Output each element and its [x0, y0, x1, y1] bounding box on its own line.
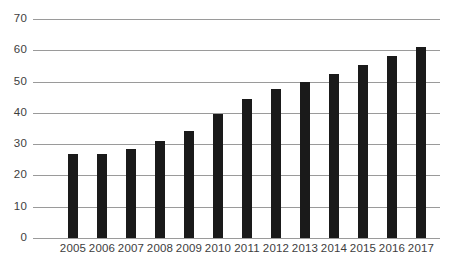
gridline: [33, 207, 440, 208]
bar: [68, 154, 78, 238]
y-axis-tick-label: 50: [14, 76, 27, 88]
bar: [329, 74, 339, 238]
plot-area: [33, 19, 440, 238]
y-axis-tick-label: 30: [14, 138, 27, 150]
gridline: [33, 113, 440, 114]
bar: [126, 149, 136, 238]
bar: [213, 114, 223, 238]
y-axis-tick-label: 70: [14, 13, 27, 25]
bar: [416, 47, 426, 238]
gridline: [33, 175, 440, 176]
x-axis-tick-label: 2017: [404, 243, 438, 255]
bar: [184, 131, 194, 238]
gridline: [33, 238, 440, 239]
y-axis-tick-label: 60: [14, 44, 27, 56]
y-axis-tick-label: 40: [14, 107, 27, 119]
y-axis-tick-label: 0: [20, 232, 27, 244]
bar: [97, 154, 107, 238]
gridline: [33, 82, 440, 83]
y-axis: 010203040506070: [0, 0, 27, 262]
bar: [387, 56, 397, 238]
gridline: [33, 50, 440, 51]
bar: [242, 99, 252, 238]
bar: [358, 65, 368, 238]
y-axis-tick-label: 20: [14, 169, 27, 181]
bar: [300, 82, 310, 238]
gridline: [33, 144, 440, 145]
y-axis-tick-label: 10: [14, 201, 27, 213]
bar: [271, 89, 281, 238]
gridline: [33, 19, 440, 20]
bar: [155, 141, 165, 238]
bar-chart: 010203040506070 200520062007200820092010…: [0, 0, 452, 262]
